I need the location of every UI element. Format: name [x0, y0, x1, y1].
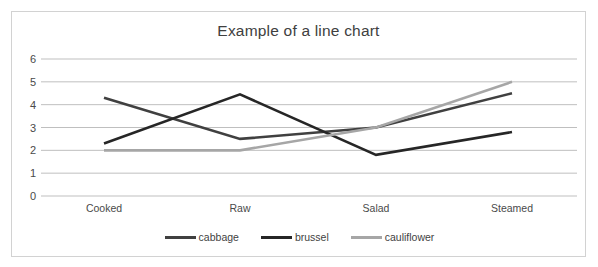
chart-container: Example of a line chart 0123456 CookedRa… — [11, 11, 586, 257]
legend-item-cauliflower[interactable]: cauliflower — [351, 231, 435, 243]
x-tick-label-cooked: Cooked — [49, 202, 159, 214]
x-tick-label-raw: Raw — [185, 202, 295, 214]
legend-swatch-icon — [351, 236, 382, 239]
legend-swatch-icon — [165, 236, 196, 239]
legend-label: cabbage — [199, 231, 239, 243]
x-tick-label-steamed: Steamed — [457, 202, 567, 214]
x-axis: CookedRawSaladSteamed — [12, 12, 587, 258]
x-tick-label-salad: Salad — [321, 202, 431, 214]
legend-item-cabbage[interactable]: cabbage — [165, 231, 239, 243]
legend-swatch-icon — [261, 236, 292, 239]
legend-item-brussel[interactable]: brussel — [261, 231, 329, 243]
chart-legend: cabbagebrusselcauliflower — [12, 231, 587, 243]
legend-label: brussel — [295, 231, 329, 243]
legend-label: cauliflower — [385, 231, 435, 243]
